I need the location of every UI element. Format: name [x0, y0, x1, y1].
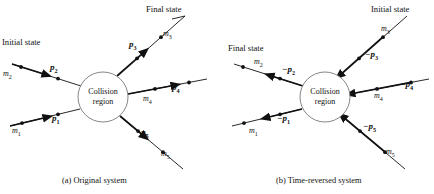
panel-b-p2-index: 2	[292, 69, 295, 76]
panel-b-p5-index: 5	[373, 126, 376, 133]
panel-a-label-m5: m5	[161, 150, 170, 160]
panel-b-dot-m2	[241, 65, 245, 69]
panel-a-label-m2: m2	[3, 70, 12, 80]
panel-b-m5-index: 5	[392, 152, 395, 158]
panel-a-p1-index: 1	[57, 118, 60, 125]
panel-a-label-m4: m4	[143, 95, 152, 105]
panel-a-region-label: Collision region	[73, 87, 133, 106]
panel-b-region-label: Collision region	[295, 87, 355, 106]
panel-a-m4-index: 4	[149, 99, 152, 105]
panel-a-dot-p2	[56, 77, 60, 81]
panel-a-p3-index: 3	[134, 44, 137, 51]
panel-a-label-p2: p2	[50, 63, 58, 74]
panel-b-label-m1: m1	[249, 127, 258, 137]
panel-a-m3-index: 3	[169, 34, 172, 40]
panel-b-dot-p3	[357, 57, 361, 61]
panel-b-initial-state-label: Initial state	[371, 5, 409, 14]
panel-b-track-p1	[232, 109, 302, 126]
panel-b-label-p1: −p1	[277, 114, 290, 125]
panel-a-m2-index: 2	[9, 74, 12, 80]
panel-b-label-m5: m5	[386, 148, 395, 158]
panel-b-label-p4: −p4	[400, 80, 413, 91]
panel-a-track-p1	[10, 109, 80, 126]
panel-a-label-m3: m3	[163, 30, 172, 40]
panel-b-m3-index: 3	[387, 29, 390, 35]
caption-b: (b) Time-reversed system	[276, 177, 362, 185]
panel-b-label-p3: −p3	[365, 50, 378, 61]
panel-b-label-m4: m4	[374, 92, 383, 102]
panel-a-lines	[0, 0, 434, 194]
panel-a-initial-state-label: Initial state	[2, 38, 40, 47]
panel-a-label-m1: m1	[12, 127, 21, 137]
panel-b-dot-p2	[278, 77, 282, 81]
panel-a-region-label-line2: region	[73, 97, 133, 107]
panel-a-dot-p3	[135, 57, 139, 61]
panel-b-dot-p5	[358, 129, 362, 133]
panel-b-p4-index: 4	[410, 84, 413, 91]
panel-b-m1-index: 1	[255, 131, 258, 137]
panel-a-label-p4: p4	[172, 83, 180, 94]
panel-a-dot-m4	[153, 87, 157, 91]
panel-b-label-m2: m2	[254, 58, 263, 68]
panel-b-region-label-line2: region	[295, 97, 355, 107]
panel-b-m2-index: 2	[260, 62, 263, 68]
panel-a-label-p1: p1	[52, 114, 60, 125]
panel-b-region-label-line1: Collision	[295, 87, 355, 97]
panel-b-p1-index: 1	[287, 118, 290, 125]
panel-b-label-p2: −p2	[282, 65, 295, 76]
panel-a-p4-index: 4	[177, 87, 180, 94]
panel-a-p5-index: 5	[146, 132, 149, 139]
panel-b-m4-index: 4	[380, 96, 383, 102]
panel-a-dot-p5	[136, 129, 140, 133]
panel-a-p2-index: 2	[55, 67, 58, 74]
panel-a-label-p5: p5	[141, 128, 149, 139]
panel-b-label-p5: −p5	[363, 122, 376, 133]
panel-b-dot-m3	[381, 35, 385, 39]
caption-a: (a) Original system	[62, 177, 127, 185]
panel-a-track-p2	[12, 64, 81, 86]
panel-b-track-p3	[339, 16, 407, 76]
panel-a-track-p4	[128, 79, 207, 94]
panel-a-region-label-line1: Collision	[73, 87, 133, 97]
panel-b-label-m3: m3	[381, 25, 390, 35]
panel-b-p3-index: 3	[375, 54, 378, 61]
panel-a-m1-index: 1	[18, 131, 21, 137]
panel-a-dot-p4	[187, 81, 191, 85]
panel-a-dot-m1	[20, 121, 24, 125]
panel-a-dot-m2	[19, 65, 23, 69]
panel-b-final-state-label: Final state	[228, 44, 264, 53]
panel-a-track-p3	[117, 16, 185, 76]
panel-a-m5-index: 5	[167, 154, 170, 160]
panel-a-track-p5	[120, 116, 183, 169]
panel-b-dot-m1	[242, 121, 246, 125]
panel-a-label-p3: p3	[129, 40, 137, 51]
collision-figure: Collision region Initial state Final sta…	[0, 0, 434, 194]
panel-a-final-state-label: Final state	[146, 5, 182, 14]
panel-b-track-p4	[350, 79, 429, 94]
